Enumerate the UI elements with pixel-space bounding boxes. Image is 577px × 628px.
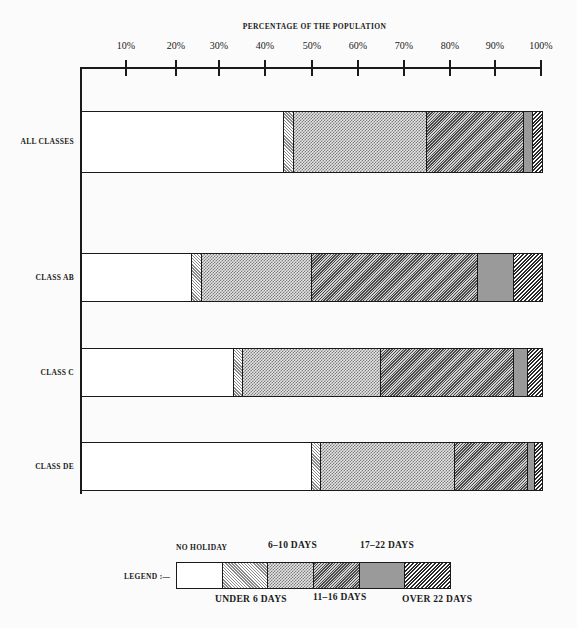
legend-swatch-under-6-days bbox=[223, 563, 269, 588]
legend-label-over-22-text: OVER 22 DAYS bbox=[402, 594, 472, 604]
x-tick-mark bbox=[218, 60, 220, 76]
row-label-all-classes: ALL CLASSES bbox=[0, 137, 74, 146]
x-tick-label: 40% bbox=[256, 40, 274, 51]
x-tick-label: 80% bbox=[441, 40, 459, 51]
stacked-bar-class-c bbox=[81, 348, 543, 397]
bar-segment-6-10-days bbox=[243, 349, 381, 396]
bar-segment-6-10-days bbox=[321, 443, 454, 490]
row-label-class-de: CLASS DE bbox=[0, 462, 74, 471]
legend-label-under-6-days: UNDER 6 DAYS bbox=[215, 594, 287, 604]
x-tick-label: 30% bbox=[210, 40, 228, 51]
bar-segment-no-holiday bbox=[82, 349, 234, 396]
bar-segment-no-holiday bbox=[82, 112, 284, 172]
x-tick-mark bbox=[449, 60, 451, 76]
bar-segment-11-16-days bbox=[455, 443, 529, 490]
bar-segment-over-22-days bbox=[528, 349, 542, 396]
bar-segment-17-22-days bbox=[514, 349, 528, 396]
legend-label-17-22-text: 17–22 DAYS bbox=[360, 540, 414, 550]
bar-segment-over-22-days bbox=[533, 112, 542, 172]
stacked-bar-class-ab bbox=[81, 253, 543, 302]
legend-swatch-11-16-days bbox=[314, 563, 360, 588]
bar-segment-under-6-days bbox=[234, 349, 243, 396]
x-tick-mark bbox=[494, 60, 496, 76]
bar-segment-no-holiday bbox=[82, 443, 312, 490]
bar-segment-over-22-days bbox=[535, 443, 542, 490]
legend-label-over-22-days: OVER 22 DAYS bbox=[402, 594, 472, 604]
legend-label-11-16-text: 11–16 DAYS bbox=[313, 592, 367, 602]
x-tick-mark bbox=[125, 60, 127, 76]
legend-prefix: LEGEND :— bbox=[124, 572, 170, 581]
bar-segment-no-holiday bbox=[82, 254, 192, 301]
x-tick-label: 20% bbox=[167, 40, 185, 51]
legend-label-6-10-text: 6–10 DAYS bbox=[268, 540, 317, 550]
legend-label-no-holiday: NO HOLIDAY bbox=[176, 543, 227, 552]
bar-segment-17-22-days bbox=[528, 443, 535, 490]
x-tick-mark bbox=[264, 60, 266, 76]
row-label-class-ab: CLASS AB bbox=[0, 273, 74, 282]
bar-segment-under-6-days bbox=[192, 254, 201, 301]
stacked-bar-class-de bbox=[81, 442, 543, 491]
bar-segment-11-16-days bbox=[427, 112, 524, 172]
legend-label-6-10-days: 6–10 DAYS bbox=[268, 540, 317, 550]
x-tick-label: 70% bbox=[395, 40, 413, 51]
x-tick-mark bbox=[311, 60, 313, 76]
x-tick-label: 10% bbox=[117, 40, 135, 51]
legend-swatch-over-22-days bbox=[405, 563, 450, 588]
x-tick-mark bbox=[357, 60, 359, 76]
bar-segment-under-6-days bbox=[312, 443, 321, 490]
x-tick-label: 100% bbox=[529, 40, 552, 51]
bar-segment-6-10-days bbox=[202, 254, 312, 301]
x-tick-label: 50% bbox=[303, 40, 321, 51]
chart-title: PERCENTAGE OF THE POPULATION bbox=[0, 22, 577, 31]
bar-segment-over-22-days bbox=[514, 254, 542, 301]
bar-segment-11-16-days bbox=[312, 254, 478, 301]
bar-segment-17-22-days bbox=[524, 112, 533, 172]
legend-label-under-6-text: UNDER 6 DAYS bbox=[215, 594, 287, 604]
legend-swatches bbox=[176, 562, 451, 589]
legend-swatch-17-22-days bbox=[360, 563, 406, 588]
bar-segment-6-10-days bbox=[294, 112, 427, 172]
row-label-class-c: CLASS C bbox=[0, 368, 74, 377]
legend-swatch-no-holiday bbox=[177, 563, 223, 588]
legend-swatch-6-10-days bbox=[268, 563, 314, 588]
x-tick-mark bbox=[175, 60, 177, 76]
stacked-bar-all-classes bbox=[81, 111, 543, 173]
bar-segment-under-6-days bbox=[284, 112, 293, 172]
x-tick-label: 90% bbox=[486, 40, 504, 51]
x-tick-mark bbox=[540, 60, 542, 76]
x-tick-label: 60% bbox=[349, 40, 367, 51]
x-tick-mark bbox=[403, 60, 405, 76]
bar-segment-17-22-days bbox=[478, 254, 515, 301]
legend-label-11-16-days: 11–16 DAYS bbox=[313, 592, 367, 602]
legend-label-17-22-days: 17–22 DAYS bbox=[360, 540, 414, 550]
bar-segment-11-16-days bbox=[381, 349, 514, 396]
